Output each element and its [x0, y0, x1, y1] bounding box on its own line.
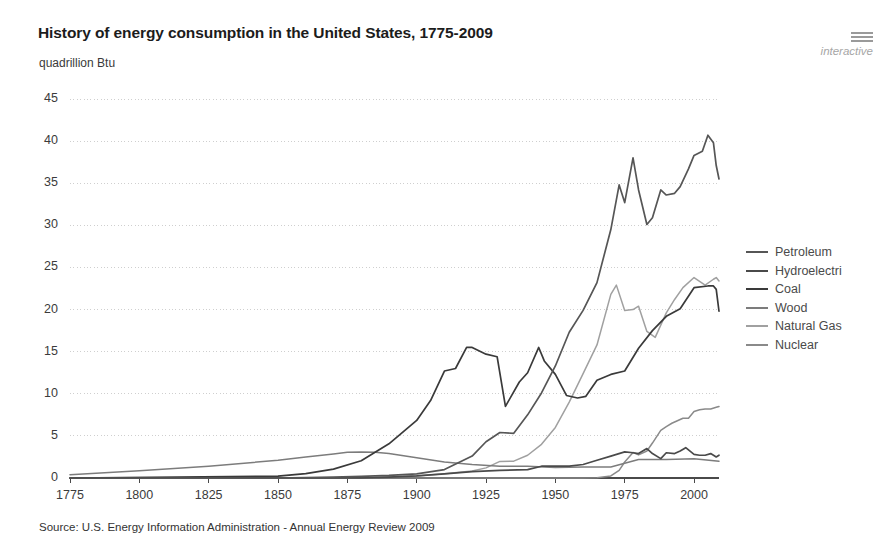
y-axis-tick-label: 30 — [26, 217, 58, 231]
x-axis-tick-label: 1900 — [391, 488, 443, 502]
legend-item-label: Coal — [775, 282, 801, 296]
x-axis-tick-label: 1875 — [321, 488, 373, 502]
y-axis-tick-label: 45 — [26, 91, 58, 105]
legend-item-label: Hydroelectri — [775, 264, 842, 278]
y-axis-tick-label: 25 — [26, 259, 58, 273]
legend-swatch-line-icon — [746, 344, 768, 346]
series-line-wood — [70, 452, 719, 475]
legend-item[interactable]: Nuclear — [746, 336, 893, 355]
series-line-petroleum — [70, 135, 719, 478]
legend-swatch-line-icon — [746, 270, 768, 272]
legend-item[interactable]: Coal — [746, 280, 893, 299]
legend-swatch-line-icon — [746, 325, 768, 327]
x-axis-tick-label: 2000 — [668, 488, 720, 502]
x-axis-tick-label: 1825 — [183, 488, 235, 502]
x-axis-tick-label: 1800 — [113, 488, 165, 502]
legend-item[interactable]: Natural Gas — [746, 317, 893, 336]
x-axis-tick-label: 1775 — [44, 488, 96, 502]
legend-item-label: Petroleum — [775, 245, 832, 259]
y-axis-tick-label: 35 — [26, 175, 58, 189]
y-axis-tick-label: 10 — [26, 386, 58, 400]
x-axis-tick-label: 1925 — [460, 488, 512, 502]
legend-item[interactable]: Hydroelectri — [746, 262, 893, 281]
y-axis-tick-label: 0 — [26, 470, 58, 484]
series-line-nuclear — [70, 406, 719, 478]
series-line-hydroelectric — [70, 448, 719, 478]
x-axis-tick-label: 1850 — [252, 488, 304, 502]
y-axis-tick-label: 15 — [26, 344, 58, 358]
source-note: Source: U.S. Energy Information Administ… — [39, 521, 435, 533]
series-line-coal — [70, 286, 719, 478]
y-axis-tick-label: 40 — [26, 133, 58, 147]
x-axis-tick-label: 1950 — [529, 488, 581, 502]
legend-swatch-line-icon — [746, 251, 768, 253]
legend-swatch-line-icon — [746, 288, 768, 290]
legend-item-label: Nuclear — [775, 338, 818, 352]
legend-item-label: Natural Gas — [775, 319, 842, 333]
chart-legend: PetroleumHydroelectriCoalWoodNatural Gas… — [746, 243, 893, 354]
y-axis-tick-label: 5 — [26, 428, 58, 442]
legend-item[interactable]: Wood — [746, 299, 893, 318]
series-line-natural-gas — [70, 278, 719, 478]
legend-item-label: Wood — [775, 301, 807, 315]
y-axis-tick-label: 20 — [26, 302, 58, 316]
x-axis-tick-label: 1975 — [599, 488, 651, 502]
legend-item[interactable]: Petroleum — [746, 243, 893, 262]
legend-swatch-line-icon — [746, 307, 768, 309]
